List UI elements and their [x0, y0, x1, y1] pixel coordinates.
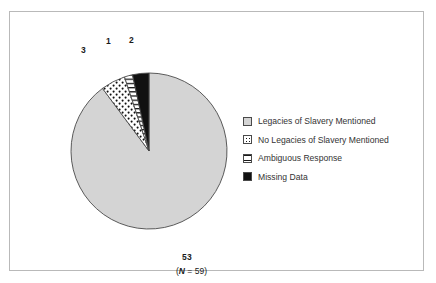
data-label-legacies: 53 — [182, 252, 192, 262]
legend-label-no-legacies-of-slavery-mentioned: No Legacies of Slavery Mentioned — [258, 135, 389, 145]
legend-swatch-black-icon — [243, 172, 252, 181]
legend-item-no-legacies-of-slavery-mentioned: No Legacies of Slavery Mentioned — [243, 131, 423, 150]
legend-label-missing-data: Missing Data — [258, 172, 308, 182]
legend-swatch-dotted-icon — [243, 135, 252, 144]
legend-item-legacies-of-slavery-mentioned: Legacies of Slavery Mentioned — [243, 112, 423, 131]
figure-border: 3 1 2 53 (N = 59) Legacies of Slavery Me… — [9, 11, 424, 271]
pie-chart-area — [64, 66, 234, 236]
pie-chart-figure: 3 1 2 53 (N = 59) Legacies of Slavery Me… — [0, 0, 436, 283]
legend-swatch-horizontal-lines-icon — [243, 154, 252, 163]
data-label-missing: 2 — [129, 35, 134, 45]
legend-swatch-light-gray-icon — [243, 117, 252, 126]
legend-label-legacies-of-slavery-mentioned: Legacies of Slavery Mentioned — [258, 116, 376, 126]
caption-equals: = — [185, 266, 195, 276]
pie-svg — [64, 66, 234, 236]
data-label-ambiguous: 1 — [106, 36, 111, 46]
chart-caption: (N = 59) — [176, 266, 207, 276]
chart-legend: Legacies of Slavery Mentioned No Legacie… — [243, 112, 423, 186]
caption-total: 59 — [195, 266, 204, 276]
legend-label-ambiguous-response: Ambiguous Response — [258, 153, 342, 163]
legend-item-ambiguous-response: Ambiguous Response — [243, 149, 423, 168]
caption-close-paren: ) — [204, 266, 207, 276]
data-label-no-legacies: 3 — [81, 45, 86, 55]
legend-item-missing-data: Missing Data — [243, 168, 423, 187]
